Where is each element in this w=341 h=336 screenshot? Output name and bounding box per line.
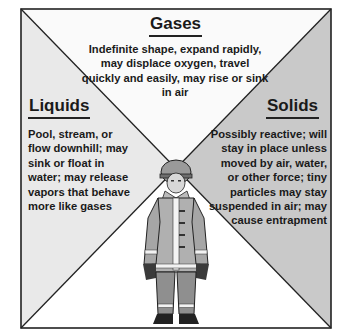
firefighter-icon [140,158,212,326]
states-of-matter-diagram: Gases Indefinite shape, expand rapidly, … [0,0,341,336]
gases-heading: Gases [149,14,202,37]
solids-heading: Solids [266,96,319,119]
liquids-description: Pool, stream, or flow downhill; may sink… [28,127,133,213]
gases-description: Indefinite shape, expand rapidly, may di… [80,42,270,100]
solids-description: Possibly reactive; will stay in place un… [208,127,327,228]
liquids-heading: Liquids [28,96,90,119]
